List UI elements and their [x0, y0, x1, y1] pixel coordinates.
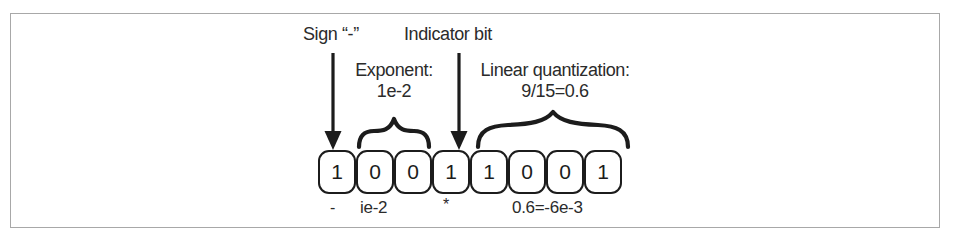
label-exponent-line2: 1e-2	[346, 81, 442, 102]
bit-cell[interactable]: 0	[508, 150, 546, 194]
bit-row: 1 0 0 1 1 0 0 1	[318, 150, 622, 194]
bit-cell[interactable]: 1	[584, 150, 622, 194]
figure-root: Sign “-” Indicator bit Exponent: 1e-2 Li…	[0, 0, 954, 245]
bottom-note-quantization: 0.6=-6e-3	[512, 198, 583, 218]
bit-cell[interactable]: 0	[356, 150, 394, 194]
bottom-note-exponent: ie-2	[360, 198, 387, 218]
label-sign: Sign “-”	[303, 24, 359, 45]
label-indicator-bit: Indicator bit	[404, 24, 492, 45]
bit-cell[interactable]: 0	[546, 150, 584, 194]
label-quantization-line2: 9/15=0.6	[462, 81, 648, 102]
bit-cell[interactable]: 0	[394, 150, 432, 194]
bottom-note-indicator: *	[443, 196, 449, 214]
label-quantization-line1: Linear quantization:	[480, 60, 629, 80]
figure-border	[10, 13, 940, 228]
bit-cell[interactable]: 1	[432, 150, 470, 194]
bottom-note-sign: -	[330, 199, 335, 217]
label-exponent: Exponent: 1e-2	[346, 60, 442, 102]
bit-cell[interactable]: 1	[318, 150, 356, 194]
label-exponent-line1: Exponent:	[355, 60, 432, 80]
label-linear-quantization: Linear quantization: 9/15=0.6	[462, 60, 648, 102]
bit-cell[interactable]: 1	[470, 150, 508, 194]
